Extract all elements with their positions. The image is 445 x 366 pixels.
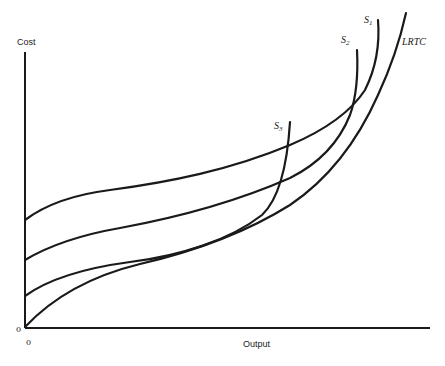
s1-curve xyxy=(25,20,378,220)
s2-label: S2 xyxy=(341,34,350,47)
x-origin-label: 0 xyxy=(26,338,31,347)
s2-curve xyxy=(25,50,357,260)
s3-curve xyxy=(25,122,290,296)
x-axis-label: Output xyxy=(243,339,270,349)
s3-label: S3 xyxy=(274,120,283,133)
cost-curves-chart xyxy=(0,0,445,366)
s1-label: S1 xyxy=(364,14,373,27)
lrtc-label: LRTC xyxy=(402,36,426,47)
y-axis-label: Cost xyxy=(17,37,36,47)
y-origin-label: 0 xyxy=(16,325,21,334)
